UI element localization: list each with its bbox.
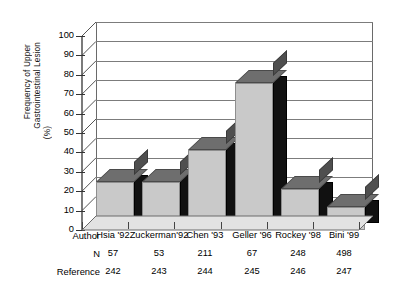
y-axis-tick-mark bbox=[76, 152, 85, 153]
y-axis-tick-mark bbox=[76, 114, 85, 115]
y-axis-tick-label: 30 bbox=[48, 166, 74, 176]
bar-column bbox=[96, 169, 134, 231]
x-axis-tick-mark bbox=[313, 222, 314, 229]
x-axis-tick-mark bbox=[359, 222, 360, 229]
y-axis-tick-label: 10 bbox=[48, 205, 74, 215]
bar-front-face bbox=[188, 150, 226, 230]
table-cell-n: 498 bbox=[309, 248, 379, 258]
bar-column bbox=[142, 169, 180, 231]
y-axis-tick-label: 50 bbox=[48, 127, 74, 137]
data-table: Author N Reference Hsia '92Zuckerman'92C… bbox=[0, 228, 397, 288]
y-axis-title-line-1: Frequency of Upper bbox=[22, 44, 32, 119]
x-axis-tick-mark bbox=[221, 222, 222, 229]
table-cell-author: Bini '99 bbox=[309, 230, 379, 240]
y-axis-ticks: 0102030405060708090100 bbox=[56, 22, 86, 230]
table-cell-reference: 247 bbox=[309, 266, 379, 276]
y-axis-tick-mark bbox=[76, 191, 85, 192]
chart-figure: Frequency of Upper Gastrointestinal Lesi… bbox=[0, 0, 397, 290]
y-axis-tick-label: 70 bbox=[48, 88, 74, 98]
gridline bbox=[96, 61, 373, 62]
y-axis-tick-label: 40 bbox=[48, 146, 74, 156]
y-axis-tick-label: 60 bbox=[48, 108, 74, 118]
bar-front-face bbox=[235, 83, 273, 230]
y-axis-tick-mark bbox=[76, 211, 85, 212]
y-axis-tick-mark bbox=[76, 75, 85, 76]
y-axis-tick-mark bbox=[76, 94, 85, 95]
y-axis-tick-mark bbox=[76, 172, 85, 173]
y-axis-title-line-2: Gastrointestinal Lesion bbox=[32, 42, 42, 129]
gridline bbox=[96, 22, 373, 23]
bar-column bbox=[235, 70, 273, 230]
y-axis-tick-label: 80 bbox=[48, 69, 74, 79]
y-axis-tick-mark bbox=[76, 133, 85, 134]
x-axis-tick-mark bbox=[82, 222, 83, 229]
y-axis-tick-label: 90 bbox=[48, 49, 74, 59]
y-axis-title: Frequency of Upper Gastrointestinal Lesi… bbox=[8, 38, 48, 218]
x-axis-tick-mark bbox=[128, 222, 129, 229]
plot-area bbox=[96, 22, 373, 216]
x-axis-tick-mark bbox=[174, 222, 175, 229]
y-axis-tick-mark bbox=[76, 36, 85, 37]
y-axis-tick-label: 100 bbox=[48, 30, 74, 40]
y-axis-tick-mark bbox=[76, 55, 85, 56]
gridline bbox=[96, 41, 373, 42]
x-axis-tick-mark bbox=[267, 222, 268, 229]
y-axis-tick-label: 20 bbox=[48, 185, 74, 195]
bar-column bbox=[188, 137, 226, 230]
